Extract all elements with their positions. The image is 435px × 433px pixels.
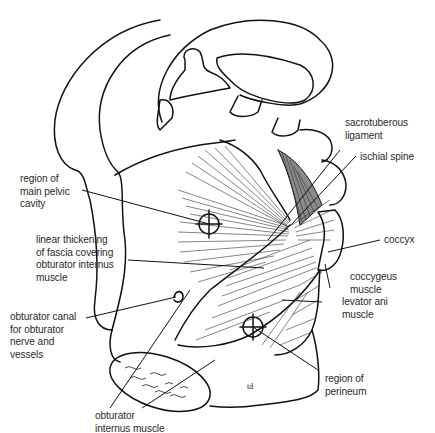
sacral-segment-1 — [230, 96, 262, 117]
label-obturator-internus-muscle: obturator internus muscle — [95, 409, 165, 433]
label-coccyx: coccyx — [384, 233, 414, 246]
sacrum-upper — [217, 54, 313, 103]
label-obturator-canal: obturator canal for obturator nerve and … — [10, 310, 76, 360]
pelvic-brim — [115, 140, 235, 175]
artist-signature: td — [247, 382, 253, 391]
sacral-segment-4 — [322, 160, 346, 205]
label-coccygeus-muscle: coccygeus muscle — [350, 270, 397, 295]
label-region-of-perineum: region of perineum — [325, 372, 366, 397]
sacral-segment-2 — [272, 118, 300, 136]
label-linear-thickening: linear thickening of fascia covering obt… — [36, 233, 114, 283]
anatomy-drawing — [0, 0, 435, 433]
label-sacrotuberous-ligament: sacrotuberous ligament — [345, 116, 408, 141]
pelvis-outer-left — [54, 20, 160, 330]
pelvis-inner-left — [99, 35, 170, 330]
leader-sacrotuberous — [268, 150, 340, 240]
label-levator-ani-muscle: levator ani muscle — [342, 295, 388, 320]
sacral-segment-3 — [300, 129, 332, 162]
arcus-tendineus — [175, 225, 290, 340]
leader-obturator-canal — [86, 297, 176, 318]
pelvic-floor-diagram: sacrotuberous ligament ischial spine reg… — [0, 0, 435, 433]
label-main-pelvic-cavity: region of main pelvic cavity — [20, 172, 70, 210]
leader-coccyx — [328, 240, 380, 252]
label-ischial-spine: ischial spine — [360, 150, 414, 163]
